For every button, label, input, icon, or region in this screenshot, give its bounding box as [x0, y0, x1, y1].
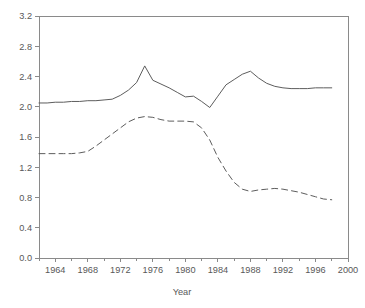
x-tick-label: 1972 — [110, 265, 130, 275]
x-tick-label: 1980 — [175, 265, 195, 275]
y-tick-label: 1.2 — [19, 163, 32, 173]
y-tick-label: 0.0 — [19, 253, 32, 263]
chart-container: 0.00.40.81.21.62.02.42.83.2 196419681972… — [0, 0, 365, 308]
y-tick-label: 1.6 — [19, 132, 32, 142]
x-tick-label: 1976 — [143, 265, 163, 275]
y-tick-label: 2.8 — [19, 42, 32, 52]
y-axis-tick-labels: 0.00.40.81.21.62.02.42.83.2 — [19, 11, 32, 263]
y-tick-label: 2.0 — [19, 102, 32, 112]
x-tick-label: 1964 — [45, 265, 65, 275]
x-axis-title: Year — [173, 287, 192, 297]
y-tick-label: 0.8 — [19, 193, 32, 203]
x-tick-label: 2000 — [338, 265, 358, 275]
x-tick-label: 1988 — [240, 265, 260, 275]
line-chart: 0.00.40.81.21.62.02.42.83.2 196419681972… — [0, 0, 365, 308]
x-tick-label: 1968 — [78, 265, 98, 275]
y-tick-label: 0.4 — [19, 223, 32, 233]
x-tick-label: 1992 — [273, 265, 293, 275]
y-tick-label: 3.2 — [19, 11, 32, 21]
y-tick-label: 2.4 — [19, 72, 32, 82]
x-tick-label: 1996 — [305, 265, 325, 275]
x-tick-label: 1984 — [208, 265, 228, 275]
